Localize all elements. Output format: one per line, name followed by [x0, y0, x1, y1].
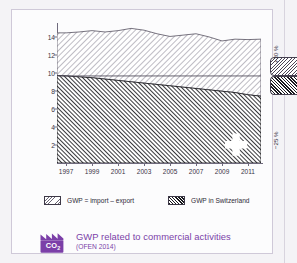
legend-label-import-export: GWP = import – export: [67, 197, 134, 204]
caption-text-block: GWP related to commercial activities (OF…: [76, 231, 231, 250]
figure-root: [t CO2-eq/inhabitant] 2468101214: [0, 0, 297, 263]
x-tick-mark: [196, 163, 197, 166]
legend-swatch-light-hatch: [44, 196, 61, 205]
legend-item-import-export: GWP = import – export: [44, 196, 134, 205]
legend-label-switzerland: GWP in Switzerland: [191, 197, 250, 204]
x-tick-mark: [170, 163, 171, 166]
x-tick-label: 2007: [189, 168, 203, 175]
x-tick-mark: [66, 163, 67, 166]
stacked-area-chart: [57, 23, 261, 163]
y-axis-title: [t CO2-eq/inhabitant]: [0, 0, 8, 22]
x-tick-label: 2011: [241, 168, 255, 175]
factory-co2-logo-icon: CO2: [39, 227, 67, 254]
legend-item-switzerland: GWP in Switzerland: [168, 196, 250, 205]
legend-swatch-dark-hatch: [168, 196, 185, 205]
y-tick-label-group: 2468101214: [33, 23, 55, 163]
x-tick-mark: [248, 163, 249, 166]
figure-caption: CO2 GWP related to commercial activities…: [39, 224, 264, 256]
change-label-import-export: +30 %: [272, 45, 279, 62]
chart-legend: GWP = import – export GWP in Switzerland: [44, 196, 276, 210]
x-axis-line: [57, 163, 263, 164]
caption-source: (OFEN 2014): [76, 243, 231, 250]
change-label-switzerland: −25 %: [272, 131, 279, 148]
x-tick-label-group: 19971999200120032005200720092011: [57, 168, 263, 180]
x-tick-label: 2001: [111, 168, 125, 175]
x-tick-label: 1997: [59, 168, 73, 175]
x-tick-mark: [144, 163, 145, 166]
change-pill-lower: [270, 76, 297, 95]
figure-card: [t CO2-eq/inhabitant] 2468101214: [11, 9, 273, 254]
caption-title: GWP related to commercial activities: [76, 231, 231, 242]
x-tick-label: 2003: [137, 168, 151, 175]
x-tick-mark: [118, 163, 119, 166]
page-gutter-line: [284, 0, 285, 263]
x-tick-label: 1999: [85, 168, 99, 175]
x-tick-label: 2009: [215, 168, 229, 175]
x-tick-mark: [92, 163, 93, 166]
x-tick-mark: [222, 163, 223, 166]
factory-icon: [39, 227, 67, 254]
plot-area: [57, 23, 261, 163]
x-tick-label: 2005: [163, 168, 177, 175]
